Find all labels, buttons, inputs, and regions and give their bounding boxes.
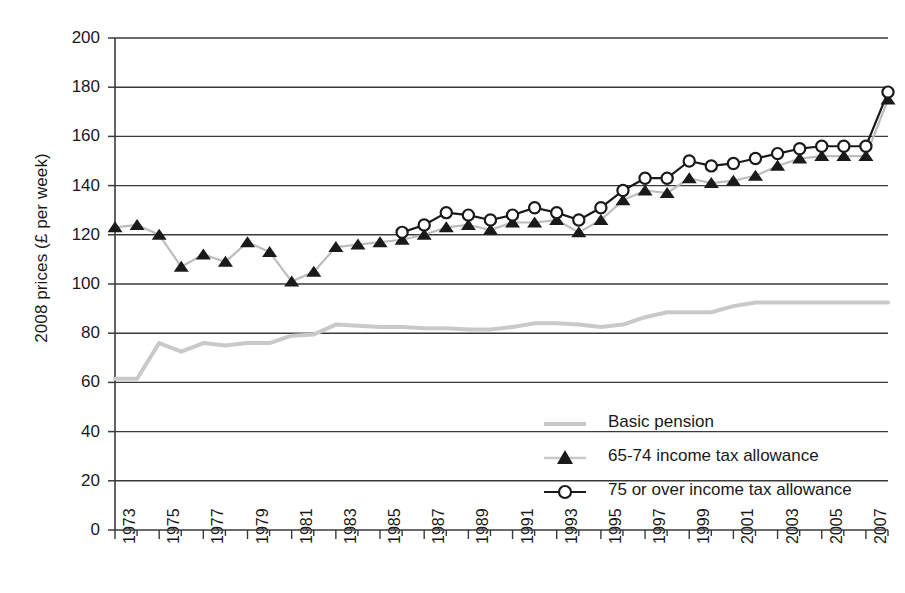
data-point-triangle [571,226,586,237]
data-point-circle [728,158,739,169]
data-point-circle [419,219,430,230]
data-point-triangle [770,160,785,171]
legend-item-75-or-over: 75 or over income tax allowance [540,473,852,507]
data-point-triangle [240,236,255,247]
data-point-triangle [130,219,145,230]
data-point-triangle [196,248,211,259]
data-point-circle [485,214,496,225]
data-point-circle [662,173,673,184]
data-point-circle [463,210,474,221]
legend-label-75-or-over: 75 or over income tax allowance [608,473,852,507]
data-point-circle [595,202,606,213]
data-point-circle [794,143,805,154]
data-point-triangle [682,172,697,183]
data-point-triangle [262,246,277,257]
legend-swatch-65-74 [540,446,598,466]
data-point-circle [507,210,518,221]
legend-label-basic-pension: Basic pension [608,405,714,439]
data-point-circle [684,155,695,166]
legend-swatch-75-or-over [540,480,598,500]
series-line [115,100,888,282]
data-point-triangle [748,170,763,181]
data-point-circle [882,87,893,98]
data-point-circle [860,141,871,152]
data-point-circle [838,141,849,152]
data-point-triangle [284,275,299,286]
chart-legend: Basic pension 65-74 income tax allowance… [540,405,852,507]
legend-label-65-74: 65-74 income tax allowance [608,439,819,473]
data-point-circle [441,207,452,218]
data-point-triangle [174,261,189,272]
data-point-circle [816,141,827,152]
data-point-circle [706,160,717,171]
legend-item-basic-pension: Basic pension [540,405,852,439]
chart-container: 2008 prices (£ per week) 020406080100120… [0,0,905,593]
data-point-circle [639,173,650,184]
data-point-circle [573,214,584,225]
data-point-circle [617,185,628,196]
data-point-circle [551,207,562,218]
legend-item-65-74: 65-74 income tax allowance [540,439,852,473]
data-point-circle [529,202,540,213]
data-point-circle [772,148,783,159]
series-line [115,302,888,378]
series-line [402,92,888,232]
data-point-circle [750,153,761,164]
data-point-circle [397,227,408,238]
legend-swatch-basic-pension [540,412,598,432]
